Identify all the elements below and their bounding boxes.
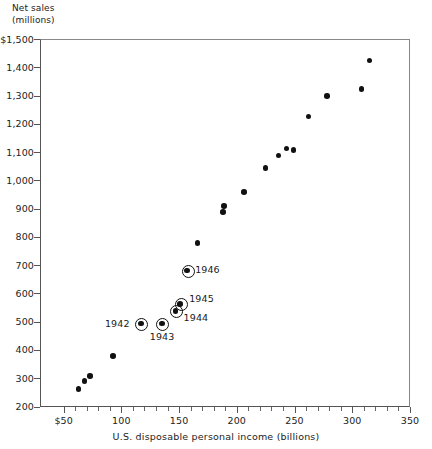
y-axis-title-line1: Net sales (12, 3, 55, 15)
x-tick-mark (237, 407, 238, 413)
x-minor-tick-mark (168, 407, 169, 411)
x-minor-tick-mark (214, 407, 215, 411)
x-tick-label: 250 (285, 415, 303, 426)
x-tick-mark (295, 407, 296, 413)
x-tick-label: 200 (228, 415, 246, 426)
x-minor-tick-mark (98, 407, 99, 411)
x-tick-mark (352, 407, 353, 413)
y-tick-label: 1,400 (0, 62, 34, 73)
y-tick-label: 1,100 (0, 147, 34, 158)
y-tick-label: 1,000 (0, 175, 34, 186)
y-tick-label: 800 (0, 231, 34, 242)
y-tick-label: 300 (0, 373, 34, 384)
y-tick-label: 200 (0, 401, 34, 412)
plot-frame (40, 39, 410, 407)
y-tick-label: 500 (0, 316, 34, 327)
x-minor-tick-mark (375, 407, 376, 411)
x-tick-label: 300 (343, 415, 361, 426)
x-minor-tick-mark (398, 407, 399, 411)
x-axis-title: U.S. disposable personal income (billion… (0, 431, 432, 442)
x-tick-label: 100 (112, 415, 130, 426)
x-tick-mark (121, 407, 122, 413)
x-minor-tick-mark (87, 407, 88, 411)
scatter-chart-figure: Net sales (millions) $1,5001,4001,3001,2… (0, 0, 432, 449)
x-minor-tick-mark (387, 407, 388, 411)
x-tick-mark (64, 407, 65, 413)
x-minor-tick-mark (133, 407, 134, 411)
x-tick-mark (179, 407, 180, 413)
x-minor-tick-mark (191, 407, 192, 411)
x-tick-label: 350 (401, 415, 419, 426)
y-axis-title: Net sales (millions) (12, 3, 55, 26)
x-tick-label: 150 (170, 415, 188, 426)
x-minor-tick-mark (306, 407, 307, 411)
y-tick-label: 700 (0, 260, 34, 271)
x-tick-label: $50 (54, 415, 72, 426)
y-tick-label: 400 (0, 344, 34, 355)
x-minor-tick-mark (364, 407, 365, 411)
x-minor-tick-mark (248, 407, 249, 411)
x-minor-tick-mark (260, 407, 261, 411)
y-axis-title-line2: (millions) (12, 15, 55, 27)
x-minor-tick-mark (341, 407, 342, 411)
x-minor-tick-mark (144, 407, 145, 411)
x-minor-tick-mark (271, 407, 272, 411)
x-tick-mark (410, 407, 411, 413)
x-minor-tick-mark (202, 407, 203, 411)
x-minor-tick-mark (156, 407, 157, 411)
y-tick-label: $1,500 (0, 34, 34, 45)
x-minor-tick-mark (75, 407, 76, 411)
y-tick-label: 1,300 (0, 90, 34, 101)
y-tick-label: 900 (0, 203, 34, 214)
x-minor-tick-mark (225, 407, 226, 411)
x-minor-tick-mark (110, 407, 111, 411)
y-tick-label: 600 (0, 288, 34, 299)
x-minor-tick-mark (318, 407, 319, 411)
x-minor-tick-mark (329, 407, 330, 411)
y-tick-label: 1,200 (0, 118, 34, 129)
x-minor-tick-mark (283, 407, 284, 411)
